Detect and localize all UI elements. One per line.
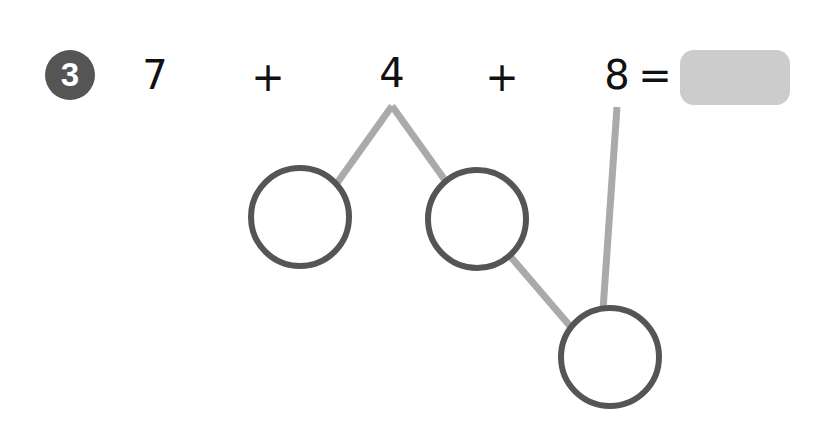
connector-4-right [392, 106, 447, 183]
connector-circle-to-bottom [510, 256, 570, 326]
sum-circle-bottom[interactable] [561, 308, 659, 406]
number-bond-diagram [0, 0, 825, 436]
split-circle-left[interactable] [251, 168, 349, 266]
connector-8-down [603, 107, 617, 310]
connector-4-left [337, 106, 392, 183]
split-circle-right[interactable] [428, 170, 526, 268]
